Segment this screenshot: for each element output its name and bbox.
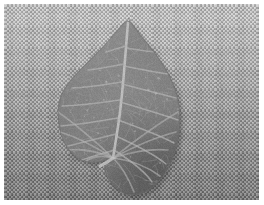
leaf-photograph [0, 0, 264, 205]
leaf-photo-canvas [0, 0, 264, 205]
